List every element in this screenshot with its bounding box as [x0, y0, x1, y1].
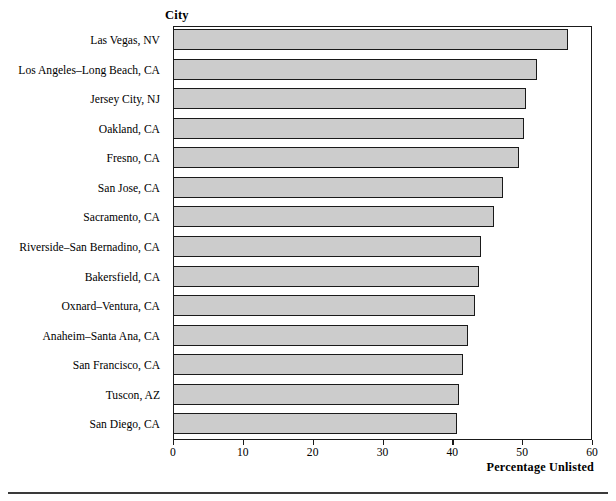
category-tick-label: San Jose, CA: [98, 174, 160, 204]
bar: [173, 177, 503, 198]
bar: [173, 118, 524, 139]
x-tick-mark: [452, 440, 453, 445]
bar-row: [173, 292, 592, 322]
category-tick-label: Sacramento, CA: [83, 203, 160, 233]
category-tick-label: Anaheim–Santa Ana, CA: [42, 322, 160, 352]
x-tick-label: 40: [447, 446, 459, 459]
bar: [173, 325, 468, 346]
category-tick-label: Oxnard–Ventura, CA: [61, 292, 160, 322]
bar-row: [173, 203, 592, 233]
category-tick-label: San Diego, CA: [89, 410, 160, 440]
category-tick-label: Oakland, CA: [99, 115, 160, 145]
bar: [173, 295, 475, 316]
bar: [173, 354, 463, 375]
x-tick-label: 10: [237, 446, 249, 459]
x-tick-mark: [173, 440, 174, 445]
x-tick-label: 0: [170, 446, 176, 459]
bar-row: [173, 85, 592, 115]
bar-row: [173, 351, 592, 381]
x-tick-mark: [383, 440, 384, 445]
x-axis-title: Percentage Unlisted: [487, 460, 594, 475]
category-axis-title: City: [165, 8, 189, 23]
category-tick-label: Jersey City, NJ: [90, 85, 160, 115]
bar: [173, 29, 568, 50]
bar-row: [173, 233, 592, 263]
x-tick-label: 20: [307, 446, 319, 459]
x-tick-label: 30: [377, 446, 389, 459]
x-tick-label: 60: [586, 446, 598, 459]
category-tick-labels: Las Vegas, NVLos Angeles–Long Beach, CAJ…: [0, 26, 168, 440]
bar: [173, 206, 494, 227]
footer-rule: [8, 492, 608, 494]
bar-row: [173, 381, 592, 411]
bar-row: [173, 174, 592, 204]
bar-row: [173, 410, 592, 440]
category-tick-label: Fresno, CA: [107, 144, 160, 174]
bar: [173, 384, 459, 405]
x-tick-label: 50: [516, 446, 528, 459]
bar: [173, 88, 526, 109]
bar: [173, 147, 519, 168]
x-tick-mark: [243, 440, 244, 445]
bar-row: [173, 144, 592, 174]
category-tick-label: Riverside–San Bernadino, CA: [19, 233, 160, 263]
bar-row: [173, 115, 592, 145]
x-tick-mark: [313, 440, 314, 445]
bar: [173, 413, 457, 434]
category-tick-label: San Francisco, CA: [73, 351, 160, 381]
bar-row: [173, 26, 592, 56]
bar: [173, 59, 537, 80]
bar-row: [173, 263, 592, 293]
category-tick-label: Bakersfield, CA: [85, 263, 160, 293]
x-tick-mark: [522, 440, 523, 445]
bar-chart-figure: City Las Vegas, NVLos Angeles–Long Beach…: [0, 0, 616, 501]
category-tick-label: Tuscon, AZ: [106, 381, 160, 411]
x-tick-mark: [592, 440, 593, 445]
bars-layer: [173, 26, 592, 440]
bar-row: [173, 56, 592, 86]
bar: [173, 266, 479, 287]
category-tick-label: Los Angeles–Long Beach, CA: [18, 56, 160, 86]
bar-row: [173, 322, 592, 352]
bar: [173, 236, 481, 257]
category-tick-label: Las Vegas, NV: [90, 26, 160, 56]
